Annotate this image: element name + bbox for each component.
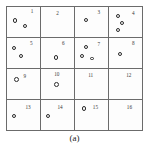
point-marker-circle-icon (13, 18, 17, 22)
grid-cell[interactable]: 12 (109, 69, 143, 100)
grid-cell-label: 4 (132, 11, 135, 16)
point-marker-circle-icon (80, 54, 84, 58)
grid-cell[interactable]: 9 (7, 69, 41, 100)
point-marker-circle-icon (46, 114, 50, 118)
grid-cell[interactable]: 5 (7, 38, 41, 69)
point-marker-circle-icon (116, 14, 120, 18)
grid-cell-label: 5 (30, 41, 33, 46)
grid-cell-label: 10 (54, 72, 59, 77)
grid-cell[interactable]: 13 (7, 100, 41, 131)
grid-cell-label: 2 (56, 11, 59, 16)
figure-panel: 12345678910111213141516 (a) (0, 0, 149, 153)
point-marker-circle-icon (84, 18, 88, 22)
point-marker-circle-icon (23, 24, 27, 28)
point-marker-circle-icon (116, 28, 120, 32)
grid-cell[interactable]: 6 (41, 38, 75, 69)
grid-cell[interactable]: 11 (75, 69, 109, 100)
point-marker-circle-icon (12, 114, 16, 118)
grid-cell[interactable]: 16 (109, 100, 143, 131)
point-marker-circle-icon (84, 45, 88, 49)
grid-cell-label: 16 (127, 105, 132, 110)
grid-cell-label: 3 (97, 10, 100, 15)
grid-cell-label: 14 (58, 105, 63, 110)
point-marker-circle-icon (54, 55, 58, 59)
point-marker-circle-icon (118, 52, 122, 56)
grid-cell-label: 9 (24, 74, 27, 79)
grid-cell[interactable]: 10 (41, 69, 75, 100)
point-marker-circle-icon (90, 57, 94, 61)
grid-cell-label: 7 (97, 42, 100, 47)
grid-cell[interactable]: 7 (75, 38, 109, 69)
figure-caption: (a) (0, 133, 149, 143)
point-marker-circle-icon (19, 54, 23, 58)
grid-cell[interactable]: 4 (109, 7, 143, 38)
grid-cell[interactable]: 1 (7, 7, 41, 38)
grid-cell-label: 1 (31, 9, 34, 14)
point-marker-circle-icon (54, 82, 59, 87)
grid-cell-label: 13 (25, 105, 30, 110)
grid-cell[interactable]: 8 (109, 38, 143, 69)
grid-cell[interactable]: 14 (41, 100, 75, 131)
grid-cell-label: 6 (62, 41, 65, 46)
grid-cell-label: 11 (88, 73, 93, 78)
grid-cell-label: 12 (126, 73, 131, 78)
grid-cell[interactable]: 3 (75, 7, 109, 38)
grid-cell-label: 8 (132, 41, 135, 46)
point-marker-circle-icon (14, 77, 19, 82)
grid-cell[interactable]: 2 (41, 7, 75, 38)
point-marker-circle-icon (82, 106, 87, 111)
point-marker-circle-icon (12, 46, 16, 50)
grid-cell[interactable]: 15 (75, 100, 109, 131)
quadrat-grid: 12345678910111213141516 (6, 6, 143, 131)
point-marker-circle-icon (120, 21, 124, 25)
grid-cell-label: 15 (93, 105, 98, 110)
